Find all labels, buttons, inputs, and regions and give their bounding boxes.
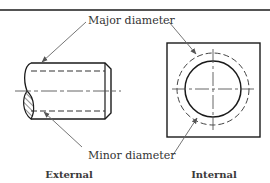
external-thread-view: [15, 63, 121, 119]
leader-major-external: [42, 22, 86, 62]
break-line-upper: [25, 63, 31, 91]
label-minor-diameter: Minor diameter: [88, 149, 176, 162]
thread-diameter-diagram: Major diameter Minor diameter External I…: [0, 0, 270, 183]
caption-external: External: [45, 169, 93, 180]
label-major-diameter: Major diameter: [88, 14, 176, 27]
leader-minor-external: [44, 112, 82, 147]
caption-internal: Internal: [191, 169, 237, 180]
plate-outline: [167, 43, 260, 137]
break-section-hatched: [24, 91, 34, 119]
internal-thread-view: [167, 43, 260, 137]
